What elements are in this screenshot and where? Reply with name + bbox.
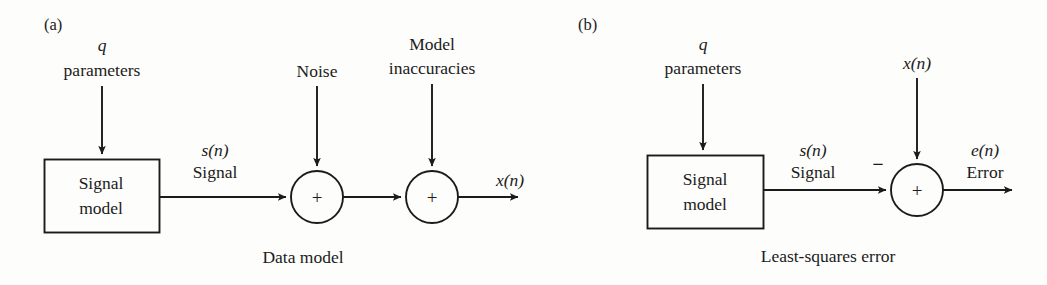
panel-b-signal-text: Signal xyxy=(791,163,836,181)
figure-canvas: (a) q parameters Signal model s(n) Signa… xyxy=(0,0,1047,285)
panel-a-tag: (a) xyxy=(44,16,62,33)
panel-a-block-label-line2: model xyxy=(79,199,123,217)
panel-a-signal-symbol: s(n) xyxy=(201,141,228,159)
panel-a-noise-label: Noise xyxy=(297,62,338,80)
panel-a-signal-model-block xyxy=(45,160,160,233)
panel-a-parameters-text: parameters xyxy=(64,61,141,79)
panel-a-output-symbol: x(n) xyxy=(496,171,524,189)
panel-b-xn-input-symbol: x(n) xyxy=(903,54,931,72)
panel-b-signal-model-block xyxy=(648,156,764,229)
panel-a-block-label-line1: Signal xyxy=(79,174,124,192)
panel-b-block-label-line2: model xyxy=(683,195,727,213)
panel-a-adder2-plus-sign: + xyxy=(427,187,438,209)
panel-b-parameters-symbol: q xyxy=(699,35,708,53)
panel-a-signal-text: Signal xyxy=(193,163,238,181)
panel-a-adder1-plus-sign: + xyxy=(312,187,323,209)
panel-a-parameters-symbol: q xyxy=(98,36,107,54)
panel-b-output-symbol: e(n) xyxy=(971,141,999,159)
panel-b-parameters-text: parameters xyxy=(665,59,742,77)
panel-a-inaccuracies-line1: Model xyxy=(409,35,455,53)
panel-a-caption: Data model xyxy=(262,248,343,266)
panel-b-signal-symbol: s(n) xyxy=(799,141,826,159)
panel-b-tag: (b) xyxy=(578,16,597,33)
panel-b-block-label-line1: Signal xyxy=(683,170,728,188)
panel-b-minus-sign: − xyxy=(872,153,883,176)
diagram-vector-layer xyxy=(0,0,1047,285)
panel-b-adder-plus-sign: + xyxy=(912,180,923,202)
panel-b-caption: Least-squares error xyxy=(761,247,896,265)
panel-a-inaccuracies-line2: inaccuracies xyxy=(389,59,475,77)
panel-b-output-text: Error xyxy=(967,163,1004,181)
